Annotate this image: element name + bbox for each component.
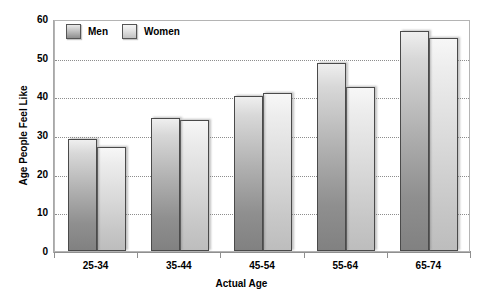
legend-swatch-men-icon	[66, 24, 81, 39]
x-axis-title: Actual Age	[0, 278, 483, 289]
y-tick-label: 60	[37, 15, 48, 25]
legend-swatch-women-icon	[122, 24, 137, 39]
legend-label-men: Men	[88, 27, 108, 37]
bar-men-55-64[interactable]	[317, 63, 346, 251]
x-tick-label: 25-34	[83, 260, 109, 271]
x-tick-mark	[304, 253, 305, 258]
legend-item-men[interactable]: Men	[66, 24, 108, 39]
x-tick-label: 35-44	[166, 260, 192, 271]
bar-men-45-54[interactable]	[234, 96, 263, 251]
x-tick-label: 45-54	[249, 260, 275, 271]
y-tick-label: 30	[37, 131, 48, 141]
bar-women-45-54[interactable]	[263, 93, 292, 251]
bar-women-35-44[interactable]	[180, 120, 209, 251]
bar-men-65-74[interactable]	[400, 31, 429, 251]
legend-item-women[interactable]: Women	[122, 24, 180, 39]
legend-label-women: Women	[144, 27, 180, 37]
y-tick-label: 50	[37, 54, 48, 64]
legend: Men Women	[66, 24, 180, 39]
y-axis-ticks: 0102030405060	[22, 0, 48, 302]
y-tick-label: 10	[37, 208, 48, 218]
bar-chart: Age People Feel Like 0102030405060 Men W…	[0, 0, 483, 302]
bar-women-55-64[interactable]	[346, 87, 375, 251]
y-tick-label: 0	[42, 247, 48, 257]
x-tick-label: 65-74	[416, 260, 442, 271]
x-tick-mark	[470, 253, 471, 258]
x-tick-mark	[54, 253, 55, 258]
bar-men-25-34[interactable]	[68, 139, 97, 251]
bar-men-35-44[interactable]	[151, 118, 180, 251]
bar-women-25-34[interactable]	[97, 147, 126, 251]
bars-layer	[55, 21, 469, 251]
y-tick-label: 20	[37, 170, 48, 180]
x-tick-label: 55-64	[332, 260, 358, 271]
plot-area	[54, 20, 470, 252]
x-tick-mark	[387, 253, 388, 258]
x-tick-mark	[137, 253, 138, 258]
y-tick-label: 40	[37, 92, 48, 102]
x-tick-mark	[220, 253, 221, 258]
bar-women-65-74[interactable]	[429, 38, 458, 251]
